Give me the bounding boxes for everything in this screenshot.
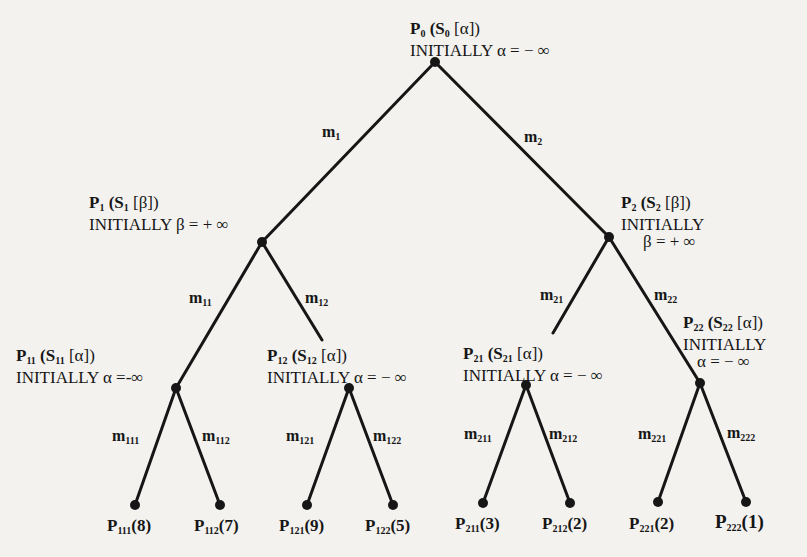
state-subscript: 12 <box>307 355 317 366</box>
bound-symbol: α <box>743 313 752 332</box>
leaf-dot-p121 <box>302 500 312 510</box>
state-subscript: 2 <box>656 202 661 213</box>
node-subscript: 0 <box>420 28 425 39</box>
leaf-dot-p212 <box>565 498 575 508</box>
node-label-p22: P22 (S22 [α]) INITIALLY α = − ∞ <box>683 314 766 370</box>
node-label-p0: P0 (S0 [α]) INITIALLY α = − ∞ <box>410 20 550 59</box>
node-subscript: 2 <box>631 202 636 213</box>
leaf-dot-p112 <box>215 500 225 510</box>
leaf-dot-p221 <box>653 497 663 507</box>
node-subscript: 12 <box>277 355 287 366</box>
state-name: S <box>435 19 444 38</box>
node-label-p12: P12 (S12 [α]) INITIALLY α = − ∞ <box>267 347 407 386</box>
state-name: S <box>713 313 722 332</box>
leaf-label-p212: P212(2) <box>542 515 587 537</box>
leaf-dot-p122 <box>388 500 398 510</box>
edge-label-m212: m212 <box>549 425 577 447</box>
edge-m111 <box>135 388 176 505</box>
node-subscript: 1 <box>99 202 104 213</box>
edge-label-m12: m12 <box>305 289 328 311</box>
node-dot-p11 <box>171 383 181 393</box>
initial-value: β = + ∞ <box>176 215 229 234</box>
node-label-p1: P1 (S1 [β]) INITIALLY β = + ∞ <box>89 194 229 233</box>
node-name: P <box>267 346 277 365</box>
bound-symbol: α <box>327 346 336 365</box>
node-label-p21: P21 (S21 [α]) INITIALLY α = − ∞ <box>463 345 603 384</box>
edge-label-m211: m211 <box>464 425 492 447</box>
state-subscript: 0 <box>445 28 450 39</box>
initially-text: INITIALLY <box>410 41 493 60</box>
edge-label-m2: m2 <box>524 128 542 150</box>
initial-value: α = − ∞ <box>497 41 550 60</box>
state-name: S <box>114 193 123 212</box>
leaf-label-p121: P121(9) <box>279 517 324 539</box>
node-name: P <box>16 346 26 365</box>
edge-m1 <box>262 62 435 242</box>
edge-m21 <box>553 237 609 333</box>
edge-m2 <box>435 62 609 237</box>
state-subscript: 1 <box>124 202 129 213</box>
state-name: S <box>46 346 55 365</box>
node-name: P <box>621 193 631 212</box>
leaf-label-p111: P111(8) <box>107 517 151 539</box>
edge-label-m112: m112 <box>202 427 230 449</box>
initially-text: INITIALLY <box>89 215 172 234</box>
leaf-dot-p111 <box>130 500 140 510</box>
edge-label-m11: m11 <box>189 289 212 311</box>
leaf-dot-p222 <box>741 497 751 507</box>
leaf-dot-p211 <box>478 498 488 508</box>
state-name: S <box>646 193 655 212</box>
edge-label-m221: m221 <box>638 425 666 447</box>
node-label-p11: P11 (S11 [α]) INITIALLY α =-∞ <box>16 347 143 386</box>
node-name: P <box>410 19 420 38</box>
node-name: P <box>683 313 693 332</box>
state-name: S <box>493 344 502 363</box>
node-name: P <box>463 344 473 363</box>
initially-text: INITIALLY <box>16 368 99 387</box>
node-name: P <box>89 193 99 212</box>
edge-label-m121: m121 <box>286 427 314 449</box>
node-subscript: 21 <box>473 353 483 364</box>
bound-symbol: α <box>523 344 532 363</box>
initial-value: α = − ∞ <box>354 368 407 387</box>
edge-label-m222: m222 <box>727 424 755 446</box>
node-dot-p2 <box>604 232 614 242</box>
edge-label-m122: m122 <box>373 427 401 449</box>
state-name: S <box>297 346 306 365</box>
state-subscript: 11 <box>55 355 64 366</box>
leaf-label-p211: P211(3) <box>455 515 500 537</box>
edge-label-m111: m111 <box>112 427 139 449</box>
edge-m11 <box>176 242 262 388</box>
leaf-label-p221: P221(2) <box>629 515 674 537</box>
initially-text: INITIALLY <box>463 366 546 385</box>
node-subscript: 22 <box>693 322 703 333</box>
initial-value: α =-∞ <box>103 368 144 387</box>
edge-label-m22: m22 <box>654 286 677 308</box>
initial-value: β = + ∞ <box>643 232 696 251</box>
state-subscript: 21 <box>503 353 513 364</box>
node-label-p2: P2 (S2 [β]) INITIALLY β = + ∞ <box>621 194 704 250</box>
initial-value: α = − ∞ <box>550 366 603 385</box>
node-subscript: 11 <box>26 355 35 366</box>
bound-symbol: α <box>75 346 84 365</box>
edge-label-m1: m1 <box>322 123 340 145</box>
leaf-label-p122: P122(5) <box>365 517 410 539</box>
leaf-label-p112: P112(7) <box>194 517 239 539</box>
bound-symbol: α <box>460 19 469 38</box>
node-dot-p22 <box>695 378 705 388</box>
edge-label-m21: m21 <box>540 286 563 308</box>
node-dot-p1 <box>257 237 267 247</box>
initially-text: INITIALLY <box>267 368 350 387</box>
leaf-label-p222: P222(1) <box>715 513 764 536</box>
tree-edges <box>0 0 807 557</box>
state-subscript: 22 <box>723 322 733 333</box>
initial-value: α = − ∞ <box>697 352 750 371</box>
